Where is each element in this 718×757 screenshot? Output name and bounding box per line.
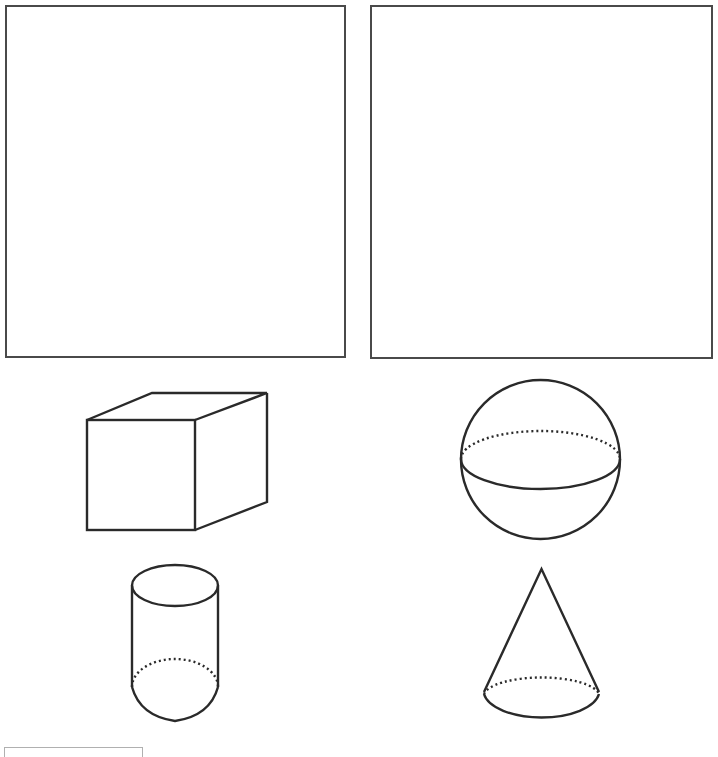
cone-shape: Cone bbox=[484, 569, 599, 717]
cylinder-shape: Cylinder bbox=[132, 565, 218, 721]
cube-shape: Cube bbox=[87, 393, 267, 530]
partial-bottom-box bbox=[4, 747, 143, 757]
sphere-shape: Sphere bbox=[461, 380, 620, 539]
